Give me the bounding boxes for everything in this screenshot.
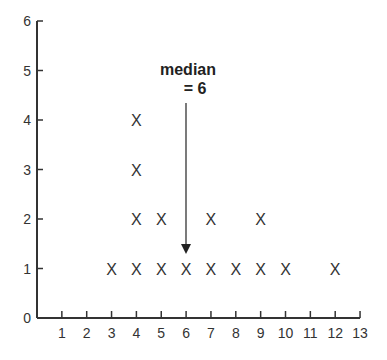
x-marker: X [255,211,266,228]
x-marker: X [230,261,241,278]
x-marker: X [206,211,217,228]
x-tick-label: 13 [352,325,368,341]
y-tick-label: 1 [23,261,31,277]
x-tick-label: 4 [133,325,141,341]
y-tick-label: 5 [23,63,31,79]
x-tick-label: 7 [207,325,215,341]
x-marker: X [181,261,192,278]
x-tick-label: 2 [83,325,91,341]
y-tick-label: 6 [23,13,31,29]
x-marker: X [255,261,266,278]
x-tick-label: 5 [157,325,165,341]
x-tick-label: 9 [257,325,265,341]
x-marker: X [280,261,291,278]
x-tick-label: 12 [327,325,343,341]
x-tick-label: 8 [232,325,240,341]
x-marker: X [131,261,142,278]
annotation-line2: = 6 [184,80,207,97]
y-tick-label: 3 [23,162,31,178]
median-arrow-head-icon [181,244,191,254]
x-marker: X [156,261,167,278]
x-tick-label: 11 [303,325,318,341]
annotation-line1: median [160,61,216,78]
x-tick-label: 10 [278,325,294,341]
x-tick-label: 3 [108,325,116,341]
x-marker: X [206,261,217,278]
x-tick-label: 6 [182,325,190,341]
dot-plot-chart: 012345612345678910111213 XXXXXXXXXXXXXXX… [0,0,387,360]
x-marker: X [131,211,142,228]
y-tick-label: 2 [23,211,31,227]
x-tick-label: 1 [58,325,66,341]
y-tick-label: 4 [23,112,31,128]
data-marks: XXXXXXXXXXXXXXX [106,112,341,278]
y-tick-label: 0 [23,310,31,326]
x-marker: X [131,112,142,129]
x-marker: X [156,211,167,228]
x-marker: X [330,261,341,278]
x-marker: X [131,162,142,179]
x-marker: X [106,261,117,278]
